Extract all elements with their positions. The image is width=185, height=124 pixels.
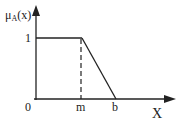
y-axis-label-arg: (x) <box>17 8 31 22</box>
x-axis-label: X <box>152 106 162 121</box>
origin-label: 0 <box>25 100 31 114</box>
x-axis-arrow-icon <box>164 95 176 103</box>
descending-slope-line <box>82 38 116 99</box>
y-axis-label: μA(x) <box>5 8 31 23</box>
x-tick-b: b <box>112 100 118 114</box>
membership-function-chart: μA(x) 1 0 m b X <box>0 0 185 124</box>
y-axis-arrow-icon <box>32 5 40 16</box>
x-tick-m: m <box>76 100 86 114</box>
y-tick-one: 1 <box>25 31 31 45</box>
